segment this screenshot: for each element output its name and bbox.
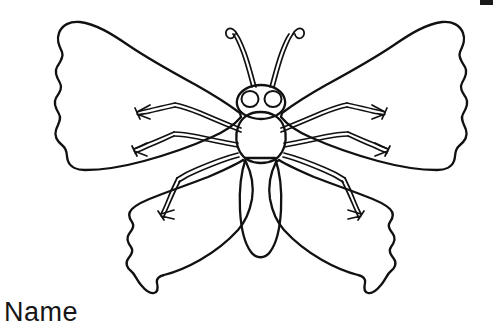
right-leg-low-inner	[283, 157, 343, 182]
head	[237, 85, 285, 119]
right-leg-low-tibia-outer	[345, 178, 361, 214]
coloring-page: Name	[0, 0, 497, 328]
left-antenna-inner	[237, 34, 256, 87]
name-field-label: Name	[4, 299, 78, 326]
right-leg-upper-claw-icon	[372, 105, 387, 119]
left-leg-mid-tibia-inner	[135, 136, 174, 153]
left-leg-upper-claw-icon	[135, 105, 150, 119]
right-leg-mid-tibia-inner	[348, 136, 387, 153]
right-eye	[265, 91, 282, 107]
right-lower-wing	[269, 160, 395, 293]
butterfly-line-drawing	[0, 0, 497, 328]
left-leg-low-tibia-outer	[161, 178, 177, 214]
abdomen	[240, 158, 282, 257]
right-leg-upper-inner	[281, 107, 347, 132]
left-leg-low-inner	[179, 157, 239, 182]
left-leg-upper-inner	[175, 107, 241, 132]
left-leg-low-outer	[177, 153, 238, 178]
left-eye	[242, 91, 259, 107]
right-leg-low-outer	[284, 153, 345, 178]
right-antenna-curl-icon	[293, 28, 304, 38]
left-lower-wing	[127, 160, 253, 293]
right-antenna	[270, 34, 289, 87]
